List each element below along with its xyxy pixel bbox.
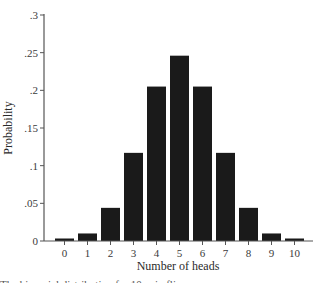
bars: [55, 56, 304, 241]
x-tick-label: 8: [246, 247, 252, 259]
x-tick-label: 0: [62, 247, 68, 259]
y-tick-label: .2: [30, 84, 38, 96]
x-tick-label: 6: [200, 247, 206, 259]
x-tick-label: 3: [131, 247, 137, 259]
y-tick-label: .25: [24, 47, 38, 59]
x-axis-title: Number of heads: [137, 259, 220, 273]
bar-3: [124, 153, 143, 241]
x-tick-label: 4: [154, 247, 160, 259]
bar-chart: 0.05.1.15.2.25.3 012345678910 Number of …: [0, 0, 324, 283]
bar-1: [78, 233, 97, 241]
y-tick-label: .15: [24, 122, 38, 134]
x-tick-label: 2: [108, 247, 114, 259]
y-axis-title: Probability: [1, 101, 15, 154]
x-ticks: 012345678910: [62, 241, 301, 259]
y-tick-label: 0: [33, 235, 39, 247]
bar-5: [170, 56, 189, 241]
y-tick-label: .05: [24, 197, 38, 209]
y-tick-label: .3: [30, 9, 39, 21]
x-tick-label: 1: [85, 247, 91, 259]
bar-4: [147, 87, 166, 241]
y-ticks: 0.05.1.15.2.25.3: [24, 9, 44, 247]
bar-7: [216, 153, 235, 241]
x-tick-label: 10: [289, 247, 301, 259]
bar-9: [262, 233, 281, 241]
y-tick-label: .1: [30, 160, 38, 172]
bar-8: [239, 208, 258, 241]
x-tick-label: 7: [223, 247, 229, 259]
x-tick-label: 9: [269, 247, 275, 259]
bar-2: [101, 208, 120, 241]
figure-caption: The binomial distribution for 10 coin fl…: [0, 276, 324, 283]
x-tick-label: 5: [177, 247, 183, 259]
bar-6: [193, 87, 212, 241]
